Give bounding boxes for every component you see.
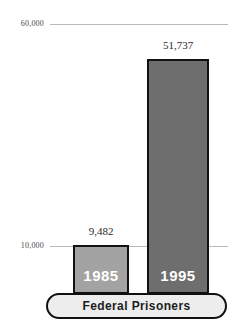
axis-tick-label-60000: 60,000 — [2, 19, 44, 28]
bar-year-label-1995: 1995 — [149, 267, 207, 284]
bar-year-label-1985: 1985 — [75, 267, 127, 284]
bar-chart: 60,000 10,000 9,482 51,737 1985 1995 Fed… — [0, 0, 247, 333]
category-axis-label: Federal Prisoners — [82, 299, 190, 313]
bar-1995: 1995 — [147, 59, 209, 294]
bar-value-label-1995: 51,737 — [147, 39, 209, 51]
gridline-60000 — [50, 24, 228, 25]
axis-tick-label-10000: 10,000 — [2, 241, 44, 250]
category-base-plate: Federal Prisoners — [46, 293, 227, 319]
bar-value-label-1985: 9,482 — [73, 225, 129, 237]
bar-1985: 1985 — [73, 245, 129, 294]
